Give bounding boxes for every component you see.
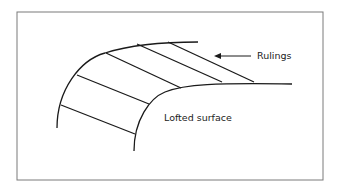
ruling-line [77,75,149,104]
lofted-surface-label: Lofted surface [164,112,232,123]
ruling-line [61,105,135,134]
lofted-surface-diagram: Rulings Lofted surface [0,0,338,188]
ruling-line [168,42,254,82]
rulings-label: Rulings [257,50,292,61]
arrow-head-icon [214,53,221,59]
ruling-line [137,44,222,82]
